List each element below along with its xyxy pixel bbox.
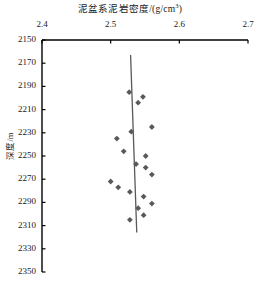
scatter-point <box>149 201 155 207</box>
scatter-point <box>143 165 149 171</box>
trend-line-segment <box>131 55 137 232</box>
scatter-point <box>140 94 146 100</box>
plot-canvas <box>0 0 260 288</box>
scatter-point <box>115 184 121 190</box>
trend-line <box>131 55 137 232</box>
scatter-point <box>121 148 127 154</box>
scatter-point <box>108 179 114 185</box>
scatter-point <box>127 217 133 223</box>
scatter-points <box>108 89 155 222</box>
scatter-point <box>141 212 147 218</box>
chart-root: 泥盆系泥岩密度/(g/cm3) 深度/m 2.42.52.62.7 215021… <box>0 0 260 288</box>
scatter-point <box>149 172 155 178</box>
scatter-point <box>135 100 141 106</box>
scatter-point <box>149 124 155 130</box>
scatter-point <box>141 194 147 200</box>
scatter-point <box>127 189 133 195</box>
scatter-point <box>114 136 120 142</box>
scatter-point <box>143 153 149 159</box>
